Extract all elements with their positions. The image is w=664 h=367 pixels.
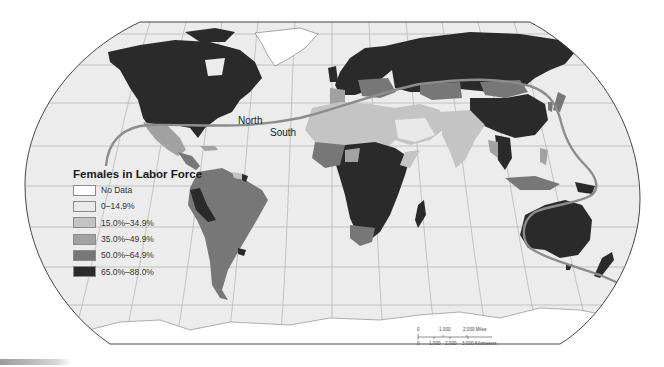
legend-label: No Data [101, 185, 132, 195]
legend-label: 0–14.9% [101, 201, 135, 211]
legend-label: 65.0%–88.0% [101, 267, 154, 277]
legend: Females in Labor Force No Data 0–14.9% 1… [73, 168, 202, 280]
legend-item-15-34: 15.0%–34.9% [73, 215, 202, 231]
scale-miles-2000: 2,000 Miles [463, 327, 487, 332]
legend-item-65-88: 65.0%–88.0% [73, 263, 202, 279]
legend-swatch [73, 185, 96, 196]
scale-miles-0: 0 [417, 327, 420, 332]
scale-km-0: 0 [417, 341, 420, 346]
south-label: South [270, 127, 296, 138]
scale-bar: 0 1,000 2,000 Miles 0 1,000 2,000 3,000 … [415, 326, 515, 350]
legend-item-50-64: 50.0%–64.9% [73, 247, 202, 263]
legend-title: Females in Labor Force [73, 168, 202, 180]
legend-swatch [73, 266, 96, 277]
legend-label: 35.0%–49.9% [101, 234, 154, 244]
decorative-gradient-bar [0, 359, 72, 365]
north-label: North [238, 115, 262, 126]
legend-item-35-49: 35.0%–49.9% [73, 231, 202, 247]
legend-swatch [73, 250, 96, 261]
legend-label: 50.0%–64.9% [101, 250, 154, 260]
legend-item-no-data: No Data [73, 182, 202, 198]
legend-swatch [73, 201, 96, 212]
legend-swatch [73, 217, 96, 228]
scale-miles-1000: 1,000 [439, 327, 451, 332]
scale-km-3000: 3,000 Kilometers [462, 341, 496, 346]
legend-label: 15.0%–34.9% [101, 218, 154, 228]
scale-km-2000: 2,000 [445, 341, 457, 346]
legend-item-0-14: 0–14.9% [73, 198, 202, 214]
scale-km-1000: 1,000 [429, 341, 441, 346]
legend-swatch [73, 234, 96, 245]
